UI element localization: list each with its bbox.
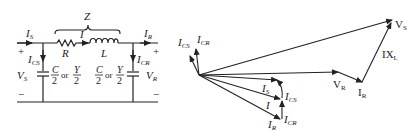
is-label: IS bbox=[25, 27, 34, 41]
ics-small-vector bbox=[277, 80, 282, 98]
inductor-icon bbox=[90, 39, 118, 44]
is-vec-label: IS bbox=[261, 82, 270, 96]
pi-circuit: Z IS I IR R L + + − − ICS ICR VS VR C bbox=[17, 10, 159, 102]
cap-label-right: C 2 or Y 2 bbox=[95, 64, 124, 86]
resistor-icon bbox=[57, 40, 78, 46]
vr-minus: − bbox=[153, 88, 159, 100]
ir-vector bbox=[199, 75, 280, 119]
svg-text:2: 2 bbox=[117, 75, 122, 86]
ics-vec-label: ICS bbox=[177, 36, 190, 50]
svg-text:Y: Y bbox=[117, 64, 124, 75]
icr-vec-label: ICR bbox=[196, 33, 210, 47]
phasor-diagram: VS VR IR IXL ICS ICR IS I ICS IR ICR bbox=[177, 18, 407, 132]
vs-plus: + bbox=[18, 45, 24, 57]
ir-vec-label: IR bbox=[267, 118, 277, 132]
svg-text:2: 2 bbox=[74, 75, 79, 86]
svg-text:or: or bbox=[61, 70, 69, 80]
icr-small-label: ICR bbox=[283, 113, 297, 127]
svg-text:C: C bbox=[52, 64, 59, 75]
impedance-brace bbox=[55, 25, 120, 34]
ir-drop-vector bbox=[338, 72, 362, 82]
ixl-label: IXL bbox=[382, 48, 398, 62]
vs-minus: − bbox=[18, 88, 24, 100]
impedance-label: Z bbox=[84, 10, 91, 22]
i-vec-label: I bbox=[265, 99, 271, 111]
vr-vector bbox=[199, 72, 338, 75]
svg-text:2: 2 bbox=[52, 75, 57, 86]
vr-vec-label: VR bbox=[333, 78, 346, 92]
vs-label: VS bbox=[17, 69, 28, 83]
svg-text:C: C bbox=[96, 64, 103, 75]
vs-vector bbox=[199, 20, 392, 75]
ir-drop-label: IR bbox=[358, 86, 367, 100]
is-vector bbox=[199, 75, 277, 80]
inductor-label: L bbox=[100, 47, 107, 59]
svg-text:2: 2 bbox=[96, 75, 101, 86]
svg-text:or: or bbox=[105, 70, 113, 80]
vr-plus: + bbox=[153, 45, 159, 57]
ics-label: ICS bbox=[27, 53, 40, 67]
resistor-label: R bbox=[61, 47, 69, 59]
vs-vec-label: VS bbox=[395, 18, 407, 32]
vr-label: VR bbox=[146, 69, 158, 83]
icr-label: ICR bbox=[136, 53, 150, 67]
ir-label: IR bbox=[143, 27, 153, 41]
svg-text:Y: Y bbox=[74, 64, 81, 75]
cap-label-left: C 2 or Y 2 bbox=[51, 64, 81, 86]
ics-small-label: ICS bbox=[284, 90, 297, 104]
